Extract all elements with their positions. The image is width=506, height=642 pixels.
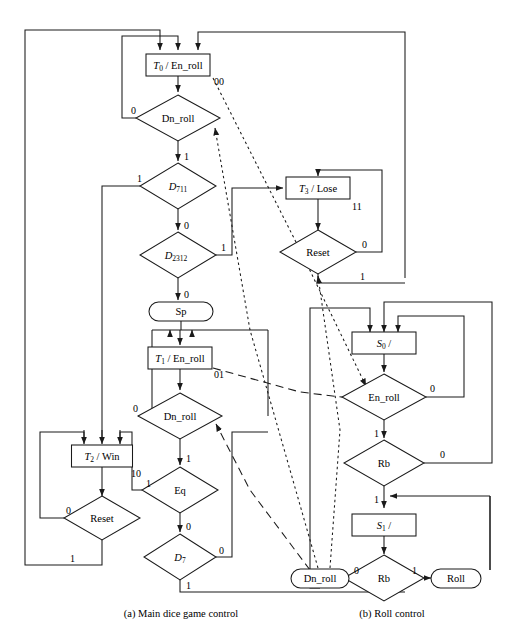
edge-label-rb2-1: 1 bbox=[412, 565, 417, 576]
decision-label-dn-roll-2: Dn_roll bbox=[164, 411, 197, 422]
decision-label-reset-main: Reset bbox=[90, 513, 113, 524]
edge-label-rb2-0: 0 bbox=[354, 565, 359, 576]
node-labels: T0 / En_roll T1 / En_roll T2 / Win T3 / … bbox=[84, 60, 465, 584]
edge-label-d7-1: 1 bbox=[186, 580, 191, 591]
edge-label-T2-code: 10 bbox=[131, 468, 141, 479]
edge-label-T0-code: 00 bbox=[214, 76, 224, 87]
edge-label-reset-main-1: 1 bbox=[70, 553, 75, 564]
figure-root: T0 / En_roll T1 / En_roll T2 / Win T3 / … bbox=[0, 0, 506, 642]
decision-label-reset-lose: Reset bbox=[306, 247, 329, 258]
edge-signal-T1-to-enroll bbox=[213, 368, 366, 400]
edge-label-dnroll2-1: 1 bbox=[186, 453, 191, 464]
edge-label-d711-0: 0 bbox=[184, 220, 189, 231]
edge-label-rb1-1: 1 bbox=[374, 494, 379, 505]
output-label-sp: Sp bbox=[175, 306, 186, 317]
decision-label-dn-roll-1: Dn_roll bbox=[162, 113, 195, 124]
output-label-dn-roll: Dn_roll bbox=[304, 573, 337, 584]
output-label-roll: Roll bbox=[447, 573, 465, 584]
decision-label-en-roll: En_roll bbox=[368, 392, 400, 403]
edge-label-eq-1: 1 bbox=[146, 478, 151, 489]
edge-label-dnroll1-1: 1 bbox=[184, 151, 189, 162]
edge-label-d7-0: 0 bbox=[219, 545, 224, 556]
edge-label-T3-code: 11 bbox=[352, 201, 362, 212]
edge-label-reset-lose-0: 0 bbox=[362, 239, 367, 250]
edge-signal-dnrollout-to-dnroll2 bbox=[216, 424, 310, 570]
caption-main: (a) Main dice game control bbox=[124, 608, 238, 620]
edge-d2312-1-to-T3 bbox=[216, 188, 283, 255]
edge-label-dnroll1-0: 0 bbox=[131, 105, 136, 116]
edge-label-reset-lose-1: 1 bbox=[360, 271, 365, 282]
decision-label-eq: Eq bbox=[174, 485, 186, 496]
edge-label-enroll-1: 1 bbox=[374, 428, 379, 439]
edge-label-d2312-0: 0 bbox=[184, 289, 189, 300]
signal-edges bbox=[213, 78, 366, 570]
decision-label-rb-2: Rb bbox=[378, 573, 390, 584]
caption-roll: (b) Roll control bbox=[359, 608, 424, 620]
edge-label-rb1-0: 0 bbox=[440, 449, 445, 460]
edge-signal-dnrollout-to-reset-lose bbox=[318, 276, 340, 568]
edge-label-reset-main-0: 0 bbox=[66, 505, 71, 516]
edge-label-d711-1: 1 bbox=[137, 173, 142, 184]
edge-label-d2312-1: 1 bbox=[221, 242, 226, 253]
edge-signal-T0-to-enroll bbox=[213, 78, 366, 386]
edge-label-enroll-0: 0 bbox=[430, 383, 435, 394]
asm-chart-svg: T0 / En_roll T1 / En_roll T2 / Win T3 / … bbox=[0, 0, 506, 642]
decision-label-rb-1: Rb bbox=[378, 458, 390, 469]
edge-d7-0-right bbox=[216, 432, 268, 557]
edge-label-dnroll2-0: 0 bbox=[133, 403, 138, 414]
edge-label-T1-code: 01 bbox=[214, 369, 224, 380]
edge-label-eq-0: 0 bbox=[186, 521, 191, 532]
edge-reset-main-1-to-T0 bbox=[25, 30, 160, 565]
output-ovals bbox=[149, 302, 481, 588]
